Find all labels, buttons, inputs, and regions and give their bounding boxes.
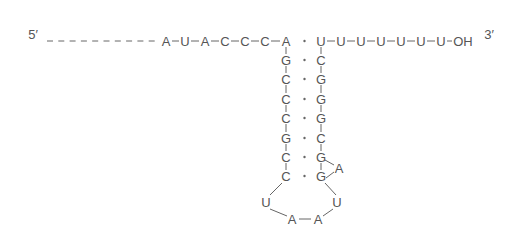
leader-nucleotide: C [240, 35, 249, 48]
leader-nucleotide: A [162, 35, 171, 48]
loop-nucleotide: A [288, 213, 297, 226]
loop-nucleotide: U [261, 196, 270, 209]
bulge-nucleotide: A [335, 162, 344, 175]
stem-right-nucleotide: G [316, 151, 326, 164]
rna-hairpin-diagram: 5′ 3′ AUACCCAGCCCGCCUCGGGCGGAUAAUUUUUUUO… [0, 0, 526, 229]
trailer-nucleotide: U [376, 35, 385, 48]
stem-left-nucleotide: C [281, 112, 290, 125]
stem-right-nucleotide: C [316, 132, 325, 145]
stem-right-nucleotide: G [316, 73, 326, 86]
stem-right-nucleotide: G [316, 112, 326, 125]
stem-right-nucleotide: G [316, 170, 326, 183]
trailer-nucleotide: U [356, 35, 365, 48]
leader-nucleotide: C [260, 35, 269, 48]
three-prime-label: 3′ [484, 28, 494, 41]
stem-right-nucleotide: C [316, 54, 325, 67]
leader-nucleotide: A [201, 35, 210, 48]
stem-right-nucleotide: G [316, 93, 326, 106]
leader-nucleotide: U [180, 35, 189, 48]
stem-left-nucleotide: C [281, 93, 290, 106]
stem-left-nucleotide: G [281, 132, 291, 145]
stem-left-nucleotide: A [282, 35, 291, 48]
stem-left-nucleotide: G [281, 54, 291, 67]
trailer-nucleotide: U [436, 35, 445, 48]
trailer-nucleotide: U [416, 35, 425, 48]
stem-left-nucleotide: C [281, 170, 290, 183]
trailer-nucleotide: U [396, 35, 405, 48]
trailer-nucleotide: U [336, 35, 345, 48]
trailer-nucleotide: OH [453, 35, 473, 48]
loop-nucleotide: A [314, 213, 323, 226]
five-prime-label: 5′ [28, 28, 38, 41]
leader-nucleotide: C [220, 35, 229, 48]
stem-right-nucleotide: U [316, 35, 325, 48]
stem-left-nucleotide: C [281, 151, 290, 164]
stem-left-nucleotide: C [281, 73, 290, 86]
loop-nucleotide: U [332, 196, 341, 209]
